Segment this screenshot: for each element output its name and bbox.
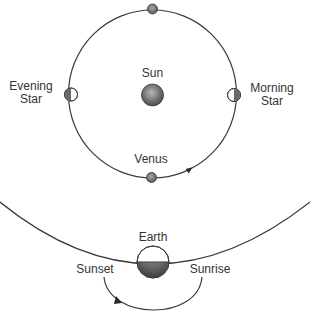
- venus-phases-diagram: Sun Venus Evening Star Morning Star Eart…: [0, 0, 310, 319]
- venus-top: [148, 4, 158, 14]
- morning-star-label-line2: Star: [261, 94, 283, 108]
- evening-star-label-line2: Star: [20, 92, 42, 106]
- morning-star-label-line1: Morning: [250, 81, 293, 95]
- earth: Earth: [137, 230, 169, 278]
- venus-label: Venus: [134, 152, 167, 166]
- sunset-label: Sunset: [76, 262, 114, 276]
- evening-star-label-line1: Evening: [9, 79, 52, 93]
- sun-label: Sun: [142, 66, 163, 80]
- earth-label: Earth: [139, 230, 168, 244]
- sun: Sun: [142, 66, 164, 106]
- sunrise-label: Sunrise: [190, 262, 231, 276]
- evening-star-venus: Evening Star: [9, 79, 77, 106]
- morning-star-venus: Morning Star: [228, 81, 294, 108]
